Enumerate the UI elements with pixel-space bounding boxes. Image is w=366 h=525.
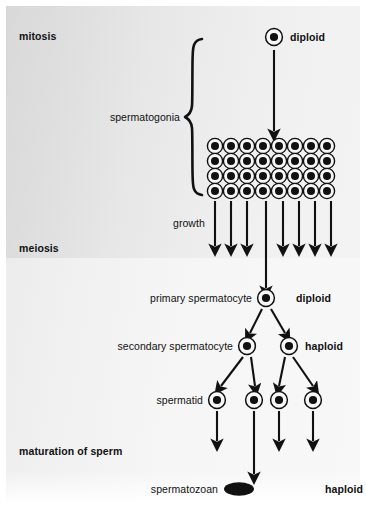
cell-label-spermatid: spermatid (156, 395, 203, 406)
figure-root: mitosis meiosis maturation of sperm sper… (0, 0, 366, 525)
cell-with-nucleus-icon (271, 392, 288, 409)
cell-with-nucleus-icon (239, 338, 256, 355)
growth-arrow-group (215, 201, 331, 288)
stage-label-maturation-of-sperm: maturation of sperm (19, 446, 122, 457)
cell-with-nucleus-icon (305, 392, 322, 409)
cell-label-spermatogonia: spermatogonia (110, 112, 180, 123)
down-arrow-icon (293, 357, 313, 386)
ploidy-label-secondary-haploid: haploid (305, 341, 343, 352)
cell-with-nucleus-icon (266, 29, 283, 46)
down-arrow-icon (271, 309, 285, 333)
ploidy-label-top-diploid: diploid (290, 32, 325, 43)
cell-with-nucleus-icon (281, 338, 298, 355)
cell-label-secondary-spermatocyte: secondary spermatocyte (118, 341, 234, 352)
down-arrow-icon (279, 357, 285, 386)
cell-label-primary-spermatocyte: primary spermatocyte (150, 293, 252, 304)
cell-with-nucleus-icon (258, 290, 275, 307)
cell-label-growth: growth (173, 218, 205, 229)
curly-brace-icon (185, 39, 202, 195)
ploidy-label-primary-diploid: diploid (296, 293, 331, 304)
cell-with-nucleus-icon (246, 392, 263, 409)
stage-label-mitosis: mitosis (19, 31, 56, 42)
down-arrow-icon (221, 357, 243, 386)
cell-with-nucleus-icon (209, 392, 226, 409)
spermatogonia-cell-grid (207, 138, 334, 198)
maturation-arrow-group (217, 411, 313, 474)
spermatozoan-icon (224, 482, 318, 496)
down-arrow-icon (250, 309, 262, 333)
stage-label-meiosis: meiosis (19, 243, 59, 254)
down-arrow-icon (251, 357, 255, 386)
cell-label-spermatozoan: spermatozoan (151, 484, 218, 495)
ploidy-label-sperm-haploid: haploid (325, 484, 363, 495)
